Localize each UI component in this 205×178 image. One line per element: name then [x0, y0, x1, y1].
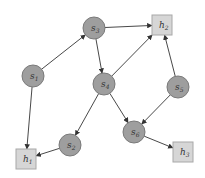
node-s2: s2 [59, 134, 81, 156]
node-h2: h2 [152, 15, 172, 35]
edge-s5-to-s6 [142, 95, 171, 124]
node-h1: h1 [16, 149, 36, 169]
edge-s1-to-s3 [42, 35, 86, 69]
edge-s1-to-h1 [27, 87, 32, 149]
directed-graph-diagram: s1s3s4s5s6s2h2h1h3 [0, 0, 205, 178]
edge-s5-to-h2 [165, 35, 176, 76]
edge-s3-to-h2 [105, 25, 152, 27]
node-s4: s4 [93, 73, 115, 95]
nodes-layer: s1s3s4s5s6s2h2h1h3 [16, 15, 193, 169]
edge-s4-to-s2 [75, 94, 98, 136]
node-h3: h3 [173, 142, 193, 162]
node-s3: s3 [83, 17, 105, 39]
edge-s6-to-h3 [144, 136, 173, 148]
node-s5: s5 [167, 76, 189, 98]
node-s6: s6 [123, 121, 145, 143]
edge-s4-to-h2 [112, 35, 152, 76]
node-s1: s1 [22, 65, 44, 87]
edge-s4-to-s6 [110, 93, 128, 122]
edge-s2-to-h1 [36, 148, 60, 155]
edge-s3-to-s4 [96, 39, 102, 73]
